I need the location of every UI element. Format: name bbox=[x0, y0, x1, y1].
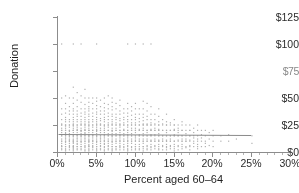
x-tick-mark-minor bbox=[65, 153, 66, 155]
y-axis-title: Donation bbox=[8, 26, 20, 106]
x-tick-mark-minor bbox=[236, 153, 237, 155]
x-tick-label: 25% bbox=[231, 158, 271, 169]
x-tick-mark-minor bbox=[228, 153, 229, 155]
x-tick-mark-minor bbox=[181, 153, 182, 155]
x-tick-mark-minor bbox=[80, 153, 81, 155]
plot-area bbox=[57, 17, 290, 152]
scatter-chart-figure: $0$25$50$75$100$125 0%5%10%15%20%25%30% … bbox=[0, 0, 299, 193]
x-tick-mark-minor bbox=[259, 153, 260, 155]
y-tick-label: $125 bbox=[251, 12, 299, 23]
x-tick-mark-minor bbox=[282, 153, 283, 155]
x-tick-mark-minor bbox=[205, 153, 206, 155]
x-tick-mark-minor bbox=[166, 153, 167, 155]
x-tick-mark-minor bbox=[189, 153, 190, 155]
x-tick-mark-minor bbox=[197, 153, 198, 155]
x-tick-mark-minor bbox=[119, 153, 120, 155]
x-tick-label: 20% bbox=[192, 158, 232, 169]
y-tick-mark bbox=[53, 98, 57, 99]
x-tick-mark-minor bbox=[150, 153, 151, 155]
x-tick-mark-minor bbox=[73, 153, 74, 155]
y-tick-label: $25 bbox=[251, 120, 299, 131]
x-tick-mark-minor bbox=[274, 153, 275, 155]
y-tick-mark bbox=[53, 44, 57, 45]
x-tick-mark-minor bbox=[127, 153, 128, 155]
y-tick-label: $50 bbox=[251, 93, 299, 104]
y-tick-mark bbox=[53, 125, 57, 126]
y-tick-mark bbox=[53, 17, 57, 18]
y-axis-spine bbox=[57, 16, 58, 153]
scatter-points-layer bbox=[57, 17, 290, 152]
x-tick-mark-minor bbox=[88, 153, 89, 155]
x-tick-mark-minor bbox=[267, 153, 268, 155]
x-axis-title: Percent aged 60–64 bbox=[57, 173, 290, 185]
y-tick-mark bbox=[53, 71, 57, 72]
x-tick-mark-minor bbox=[158, 153, 159, 155]
x-tick-label: 10% bbox=[115, 158, 155, 169]
y-tick-label: $75 bbox=[251, 66, 299, 77]
x-tick-label: 0% bbox=[37, 158, 77, 169]
x-tick-mark-minor bbox=[104, 153, 105, 155]
x-tick-mark-minor bbox=[220, 153, 221, 155]
x-tick-mark-minor bbox=[111, 153, 112, 155]
x-tick-label: 30% bbox=[270, 158, 299, 169]
x-tick-mark-minor bbox=[142, 153, 143, 155]
x-tick-label: 5% bbox=[76, 158, 116, 169]
x-tick-label: 15% bbox=[154, 158, 194, 169]
x-tick-mark-minor bbox=[243, 153, 244, 155]
y-tick-label: $100 bbox=[251, 39, 299, 50]
